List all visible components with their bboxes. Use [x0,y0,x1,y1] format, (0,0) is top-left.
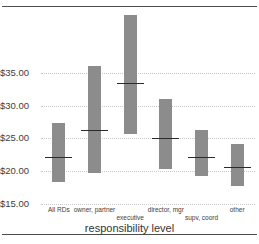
x-axis-tick-label: owner, partner [60,206,130,214]
median-marker [45,157,72,158]
gridline [41,73,255,74]
x-axis-title: responsibility level [0,222,259,234]
median-marker [117,83,144,84]
gridline [41,171,255,172]
range-bar [88,66,101,173]
y-axis-tick-label: $30.00 [0,101,38,111]
y-axis-tick-label: $35.00 [0,68,38,78]
median-marker [81,130,108,131]
median-marker [224,167,251,168]
bottom-frame-rule [2,234,257,235]
median-marker [188,157,215,158]
range-bar [195,130,208,175]
y-axis-tick-label: $25.00 [0,133,38,143]
x-axis-tick-label: other [202,206,259,214]
x-axis-tick-label: supv, coord [167,214,237,222]
range-bar [124,15,137,135]
range-bar [52,123,65,182]
gridline [41,106,255,107]
x-axis-tick-label: director, mgr [131,206,201,214]
gridline [41,204,255,205]
gridline [41,138,255,139]
chart-container: $35.00$30.00$25.00$20.00$15.00 All RDsow… [0,0,259,244]
y-axis-tick-label: $20.00 [0,166,38,176]
median-marker [152,138,179,139]
range-bar [159,99,172,169]
x-axis-tick-label: executive [95,214,165,222]
range-bar [231,144,244,187]
plot-area [41,7,255,204]
